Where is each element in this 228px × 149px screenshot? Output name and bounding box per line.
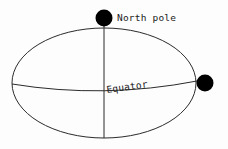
earth-diagram-canvas: North pole Equator <box>0 0 228 149</box>
north-pole-label: North pole <box>117 12 176 23</box>
diagram-background <box>0 0 228 149</box>
earth-diagram: North pole Equator <box>0 0 228 149</box>
north-pole-marker-icon <box>96 10 113 27</box>
equator-east-marker-icon <box>197 75 214 92</box>
